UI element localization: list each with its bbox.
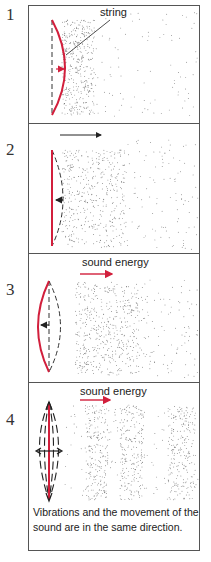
string-label: string [100, 6, 127, 18]
panel-3: sound energy [38, 256, 149, 372]
previous-position-line [52, 150, 63, 246]
sound-wave-diagram: string sound energy sound energy [0, 0, 211, 562]
sound-energy-label: sound energy [82, 256, 149, 268]
string-icon [38, 281, 49, 372]
panel-4: sound energy [36, 385, 147, 501]
caption: Vibrations and the movement of the sound… [33, 505, 199, 535]
panel-1: string [52, 6, 127, 115]
sound-energy-label: sound energy [80, 385, 147, 397]
label-pointer [66, 20, 110, 55]
panel-2 [52, 135, 101, 246]
